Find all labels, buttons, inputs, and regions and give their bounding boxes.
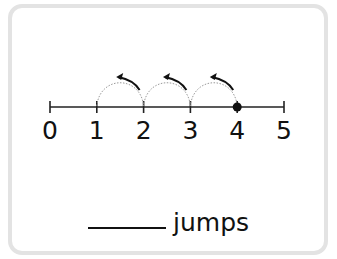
tick-label-4: 4	[229, 116, 245, 145]
jumps-label: jumps	[173, 208, 249, 238]
jump-arc-1	[190, 73, 237, 106]
tick-label-0: 0	[42, 116, 58, 145]
answer-blank[interactable]	[88, 227, 166, 229]
marked-point	[233, 103, 242, 112]
tick-label-1: 1	[89, 116, 105, 145]
jump-arc-2	[144, 73, 191, 106]
tick-label-2: 2	[136, 116, 152, 145]
tick-label-3: 3	[182, 116, 198, 145]
tick-label-5: 5	[276, 116, 292, 145]
answer-row: jumps	[88, 198, 249, 238]
jump-arc-3	[97, 73, 144, 106]
